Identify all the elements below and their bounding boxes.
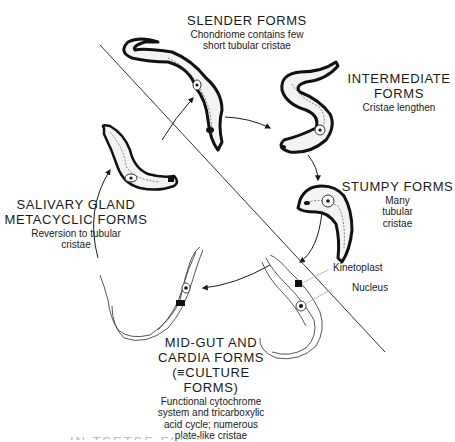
salivary-desc-2: cristae: [2, 239, 150, 251]
nucleus-label: Nucleus: [352, 282, 388, 293]
stumpy-desc-2: tubular: [340, 206, 455, 218]
stumpy-title: STUMPY FORMS: [340, 180, 455, 195]
midgut-desc-2: system and tricarboxylic: [146, 407, 276, 419]
stumpy-forms-label: STUMPY FORMS Many tubular cristae: [340, 180, 455, 229]
salivary-forms-label: SALIVARY GLAND METACYCLIC FORMS Reversio…: [2, 198, 150, 251]
stumpy-desc-1: Many: [340, 195, 455, 207]
slender-desc-2: short tubular cristae: [167, 40, 327, 52]
midgut-title-1: MID-GUT AND: [146, 336, 276, 351]
slender-forms-label: SLENDER FORMS Chondriome contains few sh…: [167, 14, 327, 52]
cut-off-caption: IN TSETSE FLIES: [70, 434, 270, 440]
midgut-title-3: (≡CULTURE FORMS): [146, 366, 276, 396]
metacyclic-form-cell: [103, 125, 177, 189]
slender-form-cell: [124, 39, 222, 150]
midgut-desc-1: Functional cytochrome: [146, 396, 276, 408]
midgut-forms-label: MID-GUT AND CARDIA FORMS (≡CULTURE FORMS…: [146, 336, 276, 442]
midgut-title-2: CARDIA FORMS: [146, 351, 276, 366]
salivary-title-2: METACYCLIC FORMS: [2, 213, 150, 228]
slender-title: SLENDER FORMS: [167, 14, 327, 29]
salivary-title-1: SALIVARY GLAND: [2, 198, 150, 213]
intermediate-title-1: INTERMEDIATE: [343, 72, 455, 87]
midgut-desc-3: acid cycle; numerous: [146, 419, 276, 431]
stumpy-desc-3: cristae: [340, 218, 455, 230]
arrow-slender-to-intermediate: [225, 117, 270, 128]
intermediate-forms-label: INTERMEDIATE FORMS Cristae lengthen: [343, 72, 455, 113]
arrow-stumpy-to-midgut: [300, 212, 322, 262]
arrow-intermediate-to-stumpy: [308, 155, 318, 180]
midgut-form-cell-left: [100, 247, 203, 340]
arrow-midgut-to-salivary: [203, 265, 270, 288]
intermediate-form-cell: [280, 62, 338, 152]
arrow-salivary-up: [162, 98, 193, 140]
slender-desc-1: Chondriome contains few: [167, 29, 327, 41]
kinetoplast-label: Kinetoplast: [333, 262, 382, 273]
intermediate-desc: Cristae lengthen: [343, 102, 455, 114]
intermediate-title-2: FORMS: [343, 87, 455, 102]
salivary-desc-1: Reversion to tubular: [2, 228, 150, 240]
